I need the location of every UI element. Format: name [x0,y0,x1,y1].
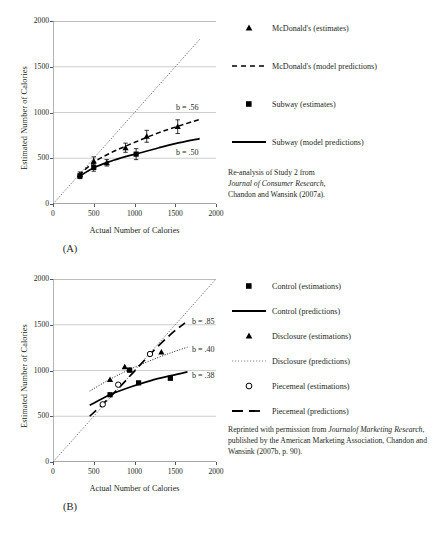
x-tick-mark [135,462,136,465]
y-tick-label: 0 [23,457,49,466]
legend-item-label: Piecemeal (estimations) [270,382,350,391]
legend-item: Disclosure (estimations) [228,330,351,342]
solid-line [228,305,270,317]
x-tick-label: 2000 [196,467,236,476]
y-tick-mark [50,325,53,326]
x-tick-label: 1500 [155,467,195,476]
x-tick-label: 1000 [115,467,155,476]
open-circle-marker [228,380,270,392]
legend-item-label: Subway (model predictions) [270,138,364,147]
x-tick-label: 0 [33,209,73,218]
slope-label-a-subway: b = .50 [176,148,199,157]
credit-note-b: Reprinted with permission from Journalof… [228,425,434,458]
credit-note-a: Re-analysis of Study 2 fromJournal of Co… [228,168,433,201]
y-tick-mark [50,416,53,417]
legend-item: McDonald's (model predictions) [228,60,377,72]
x-axis-title-b: Actual Number of Calories [53,484,216,493]
y-tick-mark [50,21,53,22]
legend-item-label: Disclosure (predictions) [270,357,350,366]
y-tick-mark [50,158,53,159]
legend-item: Piecemeal (predictions) [228,405,349,417]
legend-item-label: McDonald's (model predictions) [270,62,377,71]
legend-item-label: Control (estimations) [270,282,341,291]
solid-line [228,136,270,148]
legend-item: Subway (estimates) [228,98,336,110]
slope-label-a-mcdonalds: b = .56 [176,103,199,112]
y-axis-title-b: Estimated Number of Calories [20,324,29,428]
legend-item: Control (estimations) [228,280,341,292]
x-tick-mark [175,204,176,207]
triangle-marker [228,22,270,34]
legend-item: Piecemeal (estimations) [228,380,350,392]
square-marker [228,280,270,292]
slope-label-b-control: b = .38 [192,371,215,380]
figure-panel-a: 05001000150020000500100015002000 Estimat… [0,0,436,273]
y-axis-title-a: Estimated Number of Calories [20,66,29,170]
square-marker [228,98,270,110]
legend-item: Control (predictions) [228,305,340,317]
x-tick-label: 2000 [196,209,236,218]
legend-item-label: Subway (estimates) [270,100,336,109]
legend-item: Disclosure (predictions) [228,355,350,367]
y-tick-label: 2000 [23,16,49,25]
y-tick-mark [50,371,53,372]
triangle-marker [228,330,270,342]
credit-line: Journal of Consumer Research, [228,179,433,190]
long-dashed-line [228,405,270,417]
plot-area-a [53,21,216,204]
legend-item-label: Control (predictions) [270,307,340,316]
x-tick-mark [135,204,136,207]
y-tick-mark [50,67,53,68]
panel-label-a: (A) [0,243,288,254]
dotted-line [228,355,270,367]
x-tick-mark [94,462,95,465]
x-tick-mark [216,462,217,465]
legend-item: McDonald's (estimates) [228,22,349,34]
credit-line: Chandon and Wansink (2007a). [228,190,433,201]
legend-item: Subway (model predictions) [228,136,364,148]
x-tick-label: 1500 [155,209,195,218]
x-tick-label: 500 [74,467,114,476]
slope-label-b-disclosure: b = .40 [192,345,215,354]
slope-label-b-piecemeal: b = .85 [192,317,215,326]
legend-item-label: Piecemeal (predictions) [270,407,349,416]
legend-a: McDonald's (estimates)McDonald's (model … [228,22,436,172]
y-tick-label: 2000 [23,274,49,283]
x-tick-mark [175,462,176,465]
credit-line: Re-analysis of Study 2 from [228,168,433,179]
legend-item-label: McDonald's (estimates) [270,24,349,33]
credit-line: Reprinted with permission from Journalof… [228,425,434,458]
y-tick-label: 0 [23,199,49,208]
legend-b: Control (estimations)Control (prediction… [228,280,436,430]
x-tick-mark [53,204,54,207]
x-tick-mark [53,462,54,465]
y-tick-mark [50,279,53,280]
x-tick-mark [216,204,217,207]
y-tick-mark [50,113,53,114]
figure-panel-b: 05001000150020000500100015002000 Estimat… [0,273,436,547]
x-tick-label: 0 [33,467,73,476]
dashed-line [228,60,270,72]
legend-item-label: Disclosure (estimations) [270,332,351,341]
chart-svg-a [53,21,216,204]
x-axis-title-a: Actual Number of Calories [53,226,216,235]
x-tick-label: 500 [74,209,114,218]
x-tick-label: 1000 [115,209,155,218]
panel-label-b: (B) [0,501,288,512]
x-tick-mark [94,204,95,207]
